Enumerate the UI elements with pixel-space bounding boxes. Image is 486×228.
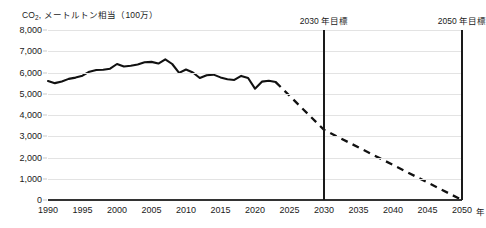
y-tick-mark xyxy=(43,178,47,179)
y-tick-mark xyxy=(43,200,47,201)
y-tick-label: 0 xyxy=(37,195,42,205)
y-tick-mark xyxy=(43,93,47,94)
2050-target-label: 2050 年目標 xyxy=(438,14,486,26)
x-tick-label: 2015 xyxy=(210,205,230,215)
y-axis-title-rest: , メートルトン相当（100万） xyxy=(39,10,159,20)
x-tick-label: 1995 xyxy=(72,205,92,215)
historical-emissions-line xyxy=(48,59,276,88)
projected-emissions-line xyxy=(276,82,462,200)
y-tick-label: 7,000 xyxy=(19,46,42,56)
y-tick-label: 2,000 xyxy=(19,153,42,163)
x-tick-label: 2005 xyxy=(141,205,161,215)
2030-target-line xyxy=(323,30,325,200)
x-tick-label: 2025 xyxy=(279,205,299,215)
gridline xyxy=(48,115,462,116)
x-tick-label: 1990 xyxy=(38,205,58,215)
x-tick-label: 2030 xyxy=(314,205,334,215)
y-tick-label: 3,000 xyxy=(19,131,42,141)
y-tick-mark xyxy=(43,30,47,31)
y-axis-title: CO2, メートルトン相当（100万） xyxy=(22,8,158,20)
gridline xyxy=(48,94,462,95)
x-tick-label: 2040 xyxy=(383,205,403,215)
gridline xyxy=(48,136,462,137)
y-tick-label: 6,000 xyxy=(19,68,42,78)
plot-area: 8,0007,0006,0005,0004,0003,0002,0001,000… xyxy=(48,30,462,200)
y-axis-title-subscript: 2 xyxy=(35,14,39,21)
y-tick-label: 4,000 xyxy=(19,110,42,120)
x-tick-label: 2010 xyxy=(176,205,196,215)
y-tick-label: 8,000 xyxy=(19,25,42,35)
gridline xyxy=(48,73,462,74)
y-tick-mark xyxy=(43,157,47,158)
gridline xyxy=(48,158,462,159)
gridline xyxy=(48,30,462,31)
2050-target-line xyxy=(461,30,463,200)
y-tick-mark xyxy=(43,72,47,73)
y-tick-mark xyxy=(43,136,47,137)
gridline xyxy=(48,179,462,180)
x-axis-unit-label: 年 xyxy=(476,205,485,217)
x-tick-label: 2000 xyxy=(107,205,127,215)
x-tick-label: 2035 xyxy=(348,205,368,215)
x-tick-label: 2020 xyxy=(245,205,265,215)
x-tick-label: 2045 xyxy=(417,205,437,215)
gridline xyxy=(48,51,462,52)
y-tick-label: 1,000 xyxy=(19,174,42,184)
y-tick-mark xyxy=(43,51,47,52)
y-axis-title-prefix: CO xyxy=(22,10,35,20)
axis-baseline xyxy=(48,200,462,201)
x-tick-label: 2050 xyxy=(452,205,472,215)
y-tick-label: 5,000 xyxy=(19,89,42,99)
y-tick-mark xyxy=(43,115,47,116)
2030-target-label: 2030 年目標 xyxy=(300,14,348,26)
